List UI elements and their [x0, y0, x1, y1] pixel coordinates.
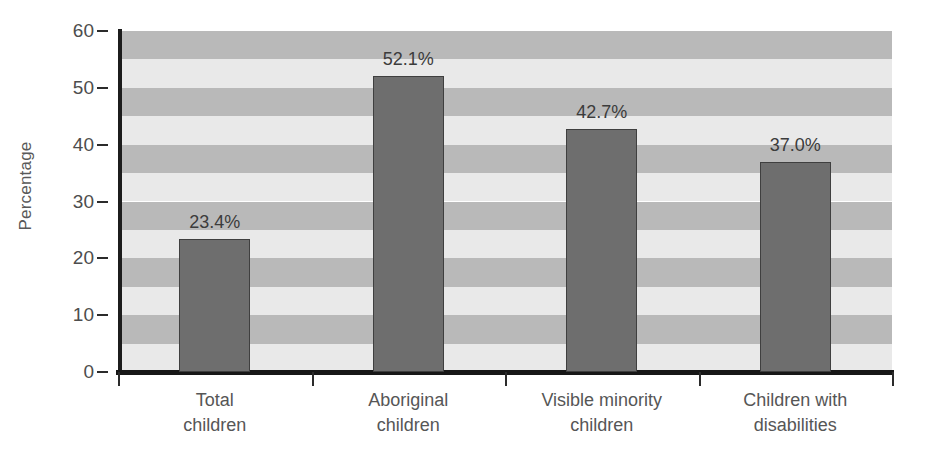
x-axis-tick-mark: [312, 372, 314, 386]
bar: [760, 162, 831, 372]
y-axis-tick-mark: [97, 314, 108, 316]
x-axis-tick-mark: [118, 372, 120, 386]
y-axis-tick-mark: [97, 371, 108, 373]
background-band: [118, 88, 892, 116]
x-axis-category-line: children: [541, 413, 662, 438]
y-axis-tick-labels: 0102030405060: [52, 0, 108, 372]
y-axis-tick-mark: [97, 201, 108, 203]
x-axis-category-line: Visible minority: [541, 388, 662, 413]
y-axis-tick-label: 30: [73, 191, 94, 213]
x-axis-category-line: disabilities: [743, 413, 847, 438]
bar-value-label: 52.1%: [383, 49, 434, 70]
bar-value-label: 37.0%: [770, 135, 821, 156]
x-axis-category-line: Aboriginal: [368, 388, 448, 413]
x-axis-category-line: Total: [183, 388, 246, 413]
x-axis-category-label: Children withdisabilities: [743, 388, 847, 438]
y-axis-label: Percentage: [0, 0, 52, 372]
background-band: [118, 31, 892, 59]
x-axis-category-line: Children with: [743, 388, 847, 413]
bar-value-label: 23.4%: [189, 212, 240, 233]
y-axis-tick-mark: [97, 30, 108, 32]
x-axis-category-label: Aboriginalchildren: [368, 388, 448, 438]
background-band: [118, 59, 892, 87]
bar: [179, 239, 250, 372]
y-axis-tick-mark: [97, 87, 108, 89]
y-axis-tick-label: 0: [83, 361, 94, 383]
y-axis-tick-label: 60: [73, 20, 94, 42]
x-axis-category-label: Visible minoritychildren: [541, 388, 662, 438]
y-axis-tick-label: 50: [73, 77, 94, 99]
y-axis-tick-mark: [97, 257, 108, 259]
bar-value-label: 42.7%: [576, 102, 627, 123]
y-axis-label-text: Percentage: [16, 142, 36, 231]
y-axis-tick-label: 10: [73, 304, 94, 326]
bar-chart-figure: Percentage 0102030405060 23.4%Totalchild…: [0, 0, 928, 455]
x-axis-tick-mark: [505, 372, 507, 386]
x-axis-tick-mark: [892, 372, 894, 386]
bar: [373, 76, 444, 372]
y-axis-tick-mark: [97, 144, 108, 146]
y-axis-tick-label: 40: [73, 134, 94, 156]
bar: [566, 129, 637, 372]
y-axis-tick-label: 20: [73, 247, 94, 269]
y-axis-spine: [118, 29, 122, 374]
x-axis-category-line: children: [183, 413, 246, 438]
x-axis-category-line: children: [368, 413, 448, 438]
x-axis-tick-mark: [699, 372, 701, 386]
x-axis-category-label: Totalchildren: [183, 388, 246, 438]
